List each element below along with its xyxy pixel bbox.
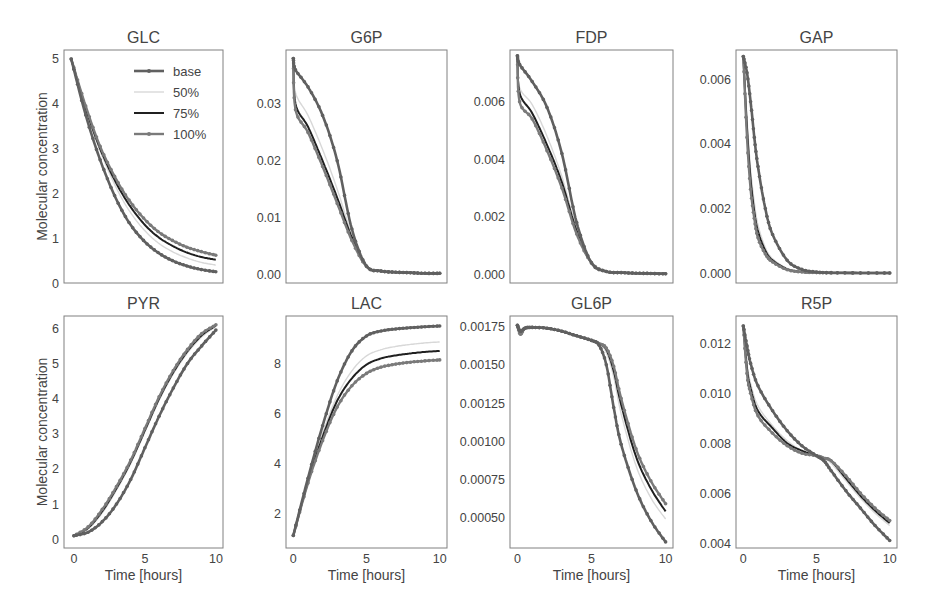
y-tick-label: 0.00175 — [460, 320, 505, 334]
x-tick-label: 5 — [813, 552, 820, 566]
y-tick-label: 0.01 — [257, 211, 281, 225]
y-tick-label: 0.004 — [474, 153, 505, 167]
y-tick-label: 3 — [52, 427, 59, 441]
y-tick-label: 0 — [52, 277, 59, 291]
y-tick-label: 0 — [52, 533, 59, 547]
y-tick-label: 0.004 — [700, 137, 731, 151]
legend-label: 50% — [173, 85, 199, 100]
y-tick-label: 5 — [52, 52, 59, 66]
x-tick-label: 10 — [883, 552, 897, 566]
x-tick-label: 10 — [209, 552, 223, 566]
panel-title: R5P — [801, 295, 832, 312]
y-tick-label: 0.03 — [257, 97, 281, 111]
y-tick-label: 1 — [52, 498, 59, 512]
x-tick-label: 5 — [141, 552, 148, 566]
y-tick-label: 0.012 — [700, 337, 731, 351]
y-axis-label: Molecular concentration — [34, 92, 50, 241]
y-tick-label: 8 — [274, 357, 281, 371]
panel-title: PYR — [127, 295, 160, 312]
x-axis-label: Time [hours] — [778, 567, 855, 583]
y-tick-label: 4 — [274, 457, 281, 471]
panel-title: FDP — [576, 29, 608, 46]
x-tick-label: 0 — [290, 552, 297, 566]
y-tick-label: 0.006 — [700, 73, 731, 87]
x-tick-label: 10 — [433, 552, 447, 566]
y-tick-label: 0.02 — [257, 154, 281, 168]
y-tick-label: 6 — [52, 322, 59, 336]
legend-label: 100% — [173, 127, 207, 142]
y-tick-label: 0.00100 — [460, 435, 505, 449]
y-tick-label: 3 — [52, 142, 59, 156]
panel-title: GL6P — [571, 295, 612, 312]
y-tick-label: 4 — [52, 97, 59, 111]
y-tick-label: 0.006 — [474, 95, 505, 109]
x-axis-label: Time [hours] — [328, 567, 405, 583]
y-tick-label: 0.00 — [257, 268, 281, 282]
y-tick-label: 0.006 — [700, 487, 731, 501]
legend-label: 75% — [173, 106, 199, 121]
y-tick-label: 0.002 — [700, 202, 731, 216]
legend-label: base — [173, 64, 201, 79]
x-tick-label: 0 — [70, 552, 77, 566]
x-tick-label: 10 — [659, 552, 673, 566]
y-tick-label: 0.010 — [700, 387, 731, 401]
y-tick-label: 0.000 — [474, 268, 505, 282]
panel-title: G6P — [350, 29, 382, 46]
y-tick-label: 6 — [274, 407, 281, 421]
x-tick-label: 0 — [740, 552, 747, 566]
panel-title: GAP — [800, 29, 834, 46]
y-tick-label: 1 — [52, 232, 59, 246]
y-tick-label: 0.004 — [700, 537, 731, 551]
x-axis-label: Time [hours] — [553, 567, 630, 583]
y-tick-label: 0.00150 — [460, 358, 505, 372]
y-tick-label: 2 — [52, 462, 59, 476]
figure-grid: GLC012345Molecular concentrationbase50%7… — [0, 0, 933, 612]
y-axis-label: Molecular concentration — [34, 358, 50, 507]
y-tick-label: 0.00125 — [460, 397, 505, 411]
y-tick-label: 0.008 — [700, 437, 731, 451]
y-tick-label: 0.00075 — [460, 473, 505, 487]
panel-title: LAC — [351, 295, 382, 312]
y-tick-label: 0.000 — [700, 267, 731, 281]
y-tick-label: 2 — [52, 187, 59, 201]
y-tick-label: 0.002 — [474, 210, 505, 224]
y-tick-label: 4 — [52, 392, 59, 406]
x-tick-label: 5 — [363, 552, 370, 566]
x-tick-label: 0 — [514, 552, 521, 566]
y-tick-label: 0.00050 — [460, 511, 505, 525]
y-tick-label: 5 — [52, 357, 59, 371]
panel-title: GLC — [127, 29, 160, 46]
y-tick-label: 2 — [274, 507, 281, 521]
x-tick-label: 5 — [588, 552, 595, 566]
x-axis-label: Time [hours] — [105, 567, 182, 583]
